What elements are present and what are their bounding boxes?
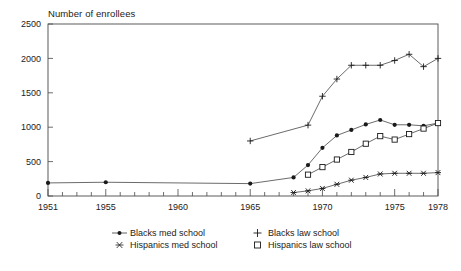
x-axis-tick-label: 1975 <box>385 202 405 212</box>
legend-label: Hispanics law school <box>268 240 352 250</box>
cropped-caption-text <box>42 264 232 271</box>
y-axis-tick-label: 1500 <box>21 88 41 98</box>
y-axis-tick-label: 2500 <box>21 19 41 29</box>
legend-label: Blacks med school <box>130 228 205 238</box>
legend-item-blacks-law-school: Blacks law school <box>250 228 352 238</box>
x-axis-tick-label: 1965 <box>240 202 260 212</box>
legend-item-hispanics-med-school: Hispanics med school <box>112 240 240 250</box>
y-axis-tick-label: 0 <box>36 191 41 201</box>
x-axis-tick-label: 1951 <box>38 202 58 212</box>
filled-circle-icon <box>112 228 127 238</box>
open-square-icon <box>250 240 265 250</box>
chart-legend: Blacks med school Blacks law school Hisp… <box>112 228 352 250</box>
x-axis-tick-label: 1955 <box>96 202 116 212</box>
legend-item-hispanics-law-school: Hispanics law school <box>250 240 352 250</box>
series-hispanics-law-school <box>305 120 440 177</box>
series-blacks-med-school <box>46 118 440 186</box>
y-axis-tick-label: 2000 <box>21 54 41 64</box>
x-axis-tick-label: 1978 <box>428 202 448 212</box>
legend-label: Blacks law school <box>268 228 339 238</box>
series-blacks-law-school <box>247 51 441 144</box>
series-hispanics-med-school <box>291 170 441 195</box>
x-axis-tick-label: 1970 <box>312 202 332 212</box>
y-axis-tick-label: 1000 <box>21 122 41 132</box>
legend-item-blacks-med-school: Blacks med school <box>112 228 240 238</box>
x-axis-tick-label: 1960 <box>168 202 188 212</box>
star-icon <box>112 240 127 250</box>
chart-figure: Number of enrollees 05001000150020002500… <box>0 0 461 271</box>
plus-icon <box>250 228 265 238</box>
y-axis-tick-label: 500 <box>26 157 41 167</box>
legend-label: Hispanics med school <box>130 240 218 250</box>
